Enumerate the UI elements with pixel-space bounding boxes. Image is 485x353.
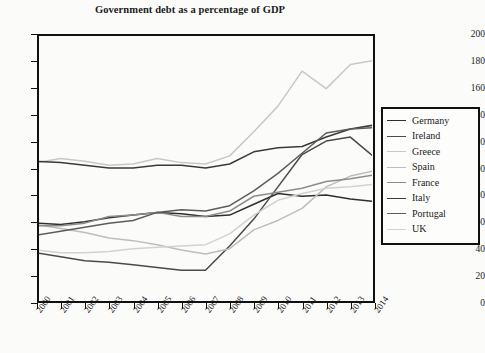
legend-label: UK [412, 224, 426, 234]
legend-label: Spain [412, 162, 435, 172]
legend-swatch [387, 229, 406, 230]
y-tick-label: 180 [455, 56, 485, 66]
legend-label: Italy [412, 193, 430, 203]
legend-swatch [387, 167, 406, 168]
legend-swatch [387, 213, 406, 214]
legend-item-spain[interactable]: Spain [387, 160, 478, 176]
legend-swatch [387, 182, 406, 183]
plot-area [37, 34, 375, 303]
y-tick-label: 40 [455, 244, 485, 254]
legend-label: Greece [412, 147, 440, 157]
legend-label: Portugal [412, 209, 446, 219]
legend-swatch [387, 198, 406, 199]
legend-label: Germany [412, 116, 449, 126]
chart-page: Government debt as a percentage of GDP 2… [0, 0, 485, 353]
series-line [39, 194, 372, 225]
y-tick-label: 0 [455, 298, 485, 308]
legend-label: Ireland [412, 131, 440, 141]
y-tick-label: 160 [455, 83, 485, 93]
y-tick-label: 200 [455, 29, 485, 39]
chart-title: Government debt as a percentage of GDP [0, 4, 380, 15]
y-tick-label: 20 [455, 271, 485, 281]
legend-label: France [412, 178, 439, 188]
series-lines [39, 36, 372, 300]
legend-item-greece[interactable]: Greece [387, 144, 478, 160]
legend-item-germany[interactable]: Germany [387, 113, 478, 129]
series-line [39, 175, 372, 226]
legend-item-france[interactable]: France [387, 175, 478, 191]
legend-item-italy[interactable]: Italy [387, 191, 478, 207]
series-line [39, 137, 372, 270]
chart-legend: GermanyIrelandGreeceSpainFranceItalyPort… [381, 107, 480, 245]
legend-swatch [387, 151, 406, 152]
series-line [39, 60, 372, 165]
legend-item-portugal[interactable]: Portugal [387, 206, 478, 222]
legend-swatch [387, 120, 406, 121]
legend-swatch [387, 136, 406, 137]
legend-item-ireland[interactable]: Ireland [387, 129, 478, 145]
legend-item-uk[interactable]: UK [387, 222, 478, 238]
